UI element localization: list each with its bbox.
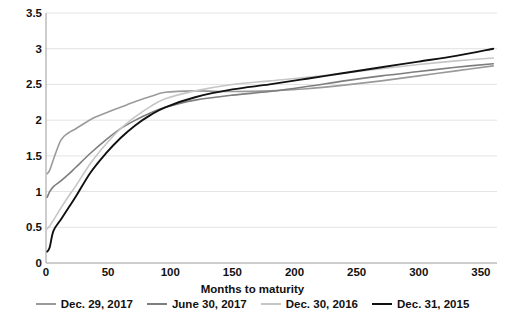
y-tick-label: 1 [8,186,42,198]
legend-line-icon [147,303,167,305]
legend-item[interactable]: Dec. 30, 2016 [261,298,358,310]
x-tick-label: 0 [43,266,49,278]
legend-label: Dec. 29, 2017 [61,298,133,310]
legend-label: Dec. 30, 2016 [286,298,358,310]
y-tick-label: 1.5 [8,150,42,162]
x-tick-label: 250 [347,266,366,278]
y-tick-label: 2 [8,114,42,126]
x-tick-label: 100 [161,266,180,278]
legend-line-icon [261,303,281,305]
series-line [47,49,493,252]
legend-label: Dec. 31, 2015 [397,298,469,310]
x-axis-label: Months to maturity [0,283,505,295]
plot-area [0,0,505,323]
y-axis-ticks: 00.511.522.533.5 [0,0,42,323]
legend-line-icon [372,303,392,305]
x-tick-label: 200 [285,266,304,278]
y-tick-label: 2.5 [8,78,42,90]
y-tick-label: 0.5 [8,221,42,233]
x-tick-label: 150 [223,266,242,278]
legend-item[interactable]: Dec. 29, 2017 [36,298,133,310]
legend-item[interactable]: Dec. 31, 2015 [372,298,469,310]
x-tick-label: 50 [102,266,115,278]
x-tick-label: 300 [409,266,428,278]
legend-item[interactable]: June 30, 2017 [147,298,247,310]
x-tick-label: 350 [471,266,490,278]
legend-label: June 30, 2017 [172,298,247,310]
y-tick-label: 0 [8,257,42,269]
chart-figure: Yield percent per year 00.511.522.533.5 … [0,0,505,323]
y-tick-label: 3.5 [8,7,42,19]
y-tick-label: 3 [8,43,42,55]
chart-legend: Dec. 29, 2017June 30, 2017Dec. 30, 2016D… [0,298,505,310]
legend-line-icon [36,303,56,305]
